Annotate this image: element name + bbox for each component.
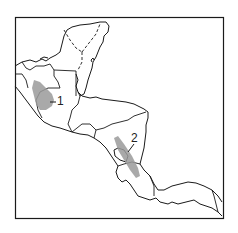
map-frame [16,18,224,219]
map-label-1: 1 [57,95,64,107]
map [0,0,238,233]
map-label-2: 2 [131,132,138,144]
